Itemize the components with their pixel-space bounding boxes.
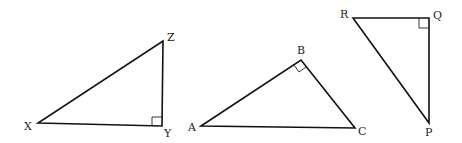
- right-angle-marker-q: [419, 18, 429, 28]
- vertex-label-p: P: [425, 126, 433, 139]
- vertex-label-b: B: [297, 44, 305, 57]
- right-triangles-diagram: X Y Z A B C R Q P: [0, 0, 462, 143]
- vertex-label-r: R: [340, 8, 349, 21]
- triangle-abc: A B C: [187, 44, 366, 138]
- triangle-xyz-outline: [38, 41, 163, 126]
- right-angle-marker-y: [152, 117, 162, 126]
- vertex-label-z: Z: [167, 31, 175, 44]
- vertex-label-q: Q: [433, 9, 442, 22]
- vertex-label-x: X: [24, 120, 32, 133]
- triangle-abc-outline: [201, 60, 355, 128]
- triangle-pqr-outline: [353, 18, 429, 123]
- vertex-label-y: Y: [163, 127, 172, 140]
- vertex-label-c: C: [358, 125, 366, 138]
- triangle-xyz: X Y Z: [24, 31, 175, 140]
- vertex-label-a: A: [187, 121, 197, 134]
- triangle-pqr: R Q P: [340, 8, 442, 139]
- right-angle-marker-b: [294, 65, 306, 72]
